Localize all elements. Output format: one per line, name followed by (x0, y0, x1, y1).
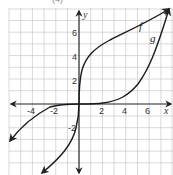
y-tick-label: 6 (72, 28, 77, 38)
grid (9, 8, 173, 175)
x-tick-label: 4 (122, 106, 127, 116)
curve-label-f: f (139, 20, 144, 32)
y-tick-label: 4 (72, 52, 77, 62)
x-axis-label: x (163, 105, 169, 116)
x-tick-label: 2 (99, 106, 104, 116)
x-tick-label: 6 (145, 106, 150, 116)
curve-g (10, 9, 169, 141)
y-tick-label: 2 (72, 76, 77, 86)
graph: -4 -2 2 4 6 x -2 2 4 6 y f g (0, 0, 173, 175)
curve-label-g: g (150, 32, 156, 44)
x-tick-label: -2 (50, 106, 58, 116)
y-axis-label: y (82, 9, 88, 20)
x-tick-label: -4 (27, 106, 35, 116)
